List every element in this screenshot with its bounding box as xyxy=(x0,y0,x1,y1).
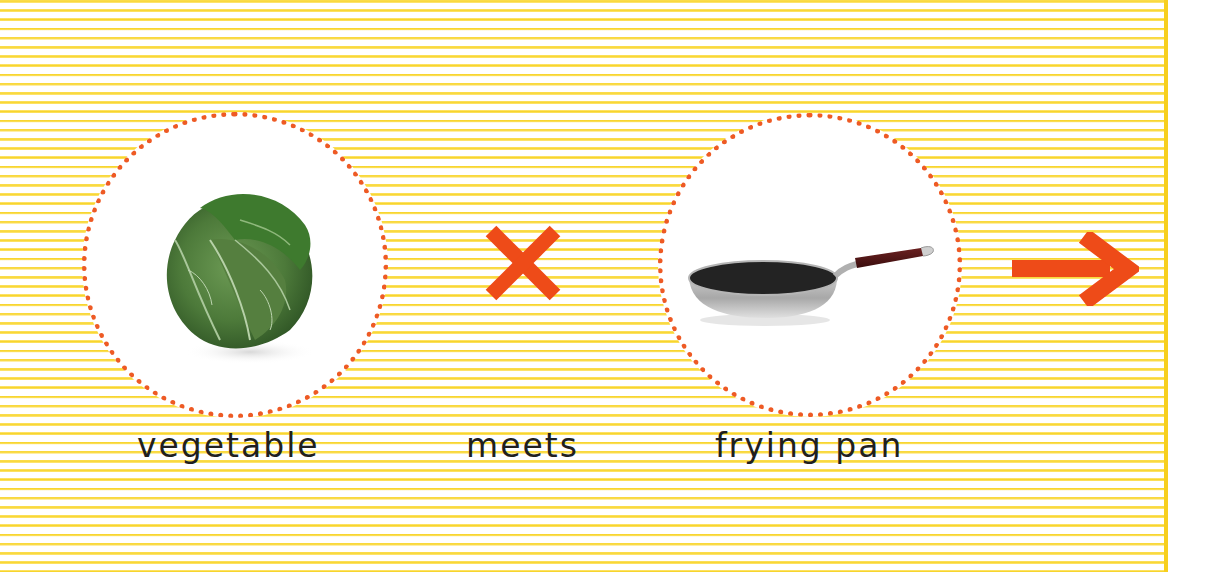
cabbage-image xyxy=(140,180,330,370)
vegetable-label: vegetable xyxy=(137,426,320,465)
right-border-bar xyxy=(1164,0,1168,572)
times-icon xyxy=(483,225,563,301)
meets-label: meets xyxy=(466,426,579,465)
frying-pan-label: frying pan xyxy=(715,426,903,465)
arrow-right-icon xyxy=(1012,232,1139,306)
frying-pan-image xyxy=(685,238,945,338)
